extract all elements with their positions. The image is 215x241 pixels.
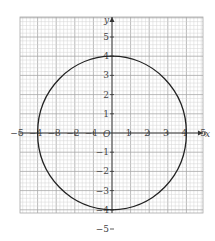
x-tick-label: −4 xyxy=(29,128,43,138)
y-tick-label: −5 xyxy=(96,224,110,234)
y-axis-label: y xyxy=(103,15,110,25)
y-tick-label: 1 xyxy=(103,109,109,119)
x-tick-label: 2 xyxy=(144,128,150,138)
y-tick-label: 3 xyxy=(103,70,109,80)
y-tick-label: −3 xyxy=(96,186,110,196)
axes xyxy=(20,17,203,213)
x-tick-label: −1 xyxy=(85,128,98,138)
x-tick-label: −3 xyxy=(48,128,62,138)
x-tick-label: −2 xyxy=(66,128,79,138)
y-tick-label: 2 xyxy=(103,90,109,100)
y-tick-label: 5 xyxy=(103,32,109,42)
x-axis-label: x xyxy=(205,129,210,139)
graph-figure: −5−4−3−2−112345−5−4−3−2−112345 x y O xyxy=(0,0,215,241)
x-tick-label: 1 xyxy=(126,128,132,138)
grid-border xyxy=(20,17,203,213)
origin-label: O xyxy=(103,129,111,139)
x-tick-label: −5 xyxy=(10,128,24,138)
grid xyxy=(20,17,203,213)
y-tick-label: −1 xyxy=(96,147,109,157)
y-tick-label: −2 xyxy=(96,166,109,176)
x-tick-label: 3 xyxy=(163,128,169,138)
